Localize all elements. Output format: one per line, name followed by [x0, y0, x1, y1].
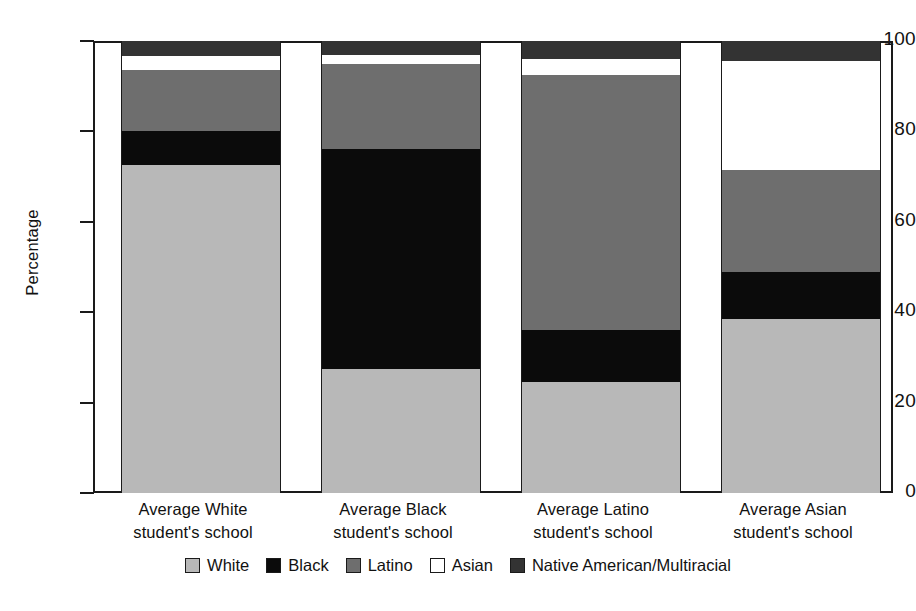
bar-segment-latino[interactable] — [322, 64, 480, 150]
y-axis-tick — [80, 130, 94, 132]
bar-segment-white[interactable] — [122, 165, 280, 493]
x-axis-label-line: student's school — [83, 521, 303, 544]
x-axis-label-line: student's school — [283, 521, 503, 544]
stacked-bar-chart: Percentage 020406080100 Average Whitestu… — [0, 0, 916, 611]
y-axis-tick — [80, 311, 94, 313]
x-axis-label-3: Average Latinostudent's school — [483, 498, 703, 544]
legend-label: Native American/Multiracial — [532, 556, 731, 575]
bar-segment-native[interactable] — [122, 41, 280, 56]
x-axis-label-2: Average Blackstudent's school — [283, 498, 503, 544]
bar-segment-black[interactable] — [522, 330, 680, 382]
bar-segment-asian[interactable] — [722, 61, 880, 169]
legend-swatch-icon — [510, 558, 525, 573]
y-axis-tick — [80, 492, 94, 494]
bar-4[interactable] — [721, 41, 881, 493]
bar-segment-white[interactable] — [522, 382, 680, 493]
bar-segment-asian[interactable] — [122, 56, 280, 70]
bar-segment-native[interactable] — [722, 41, 880, 61]
x-axis-label-line: student's school — [683, 521, 903, 544]
y-axis-tick — [80, 40, 94, 42]
bar-segment-native[interactable] — [322, 41, 480, 55]
x-axis-label-1: Average Whitestudent's school — [83, 498, 303, 544]
bar-segment-black[interactable] — [122, 131, 280, 165]
legend-label: Black — [288, 556, 328, 575]
bar-segment-asian[interactable] — [522, 59, 680, 75]
x-axis-label-line: Average Black — [339, 500, 446, 518]
bar-segment-white[interactable] — [322, 369, 480, 493]
legend-swatch-icon — [185, 558, 200, 573]
bar-segment-black[interactable] — [322, 149, 480, 368]
x-axis-label-line: Average Latino — [537, 500, 649, 518]
legend-item-native[interactable]: Native American/Multiracial — [510, 556, 731, 575]
bar-segment-black[interactable] — [722, 272, 880, 319]
bar-3[interactable] — [521, 41, 681, 493]
legend-label: White — [207, 556, 249, 575]
x-axis-label-line: student's school — [483, 521, 703, 544]
legend-item-latino[interactable]: Latino — [346, 556, 413, 575]
legend-swatch-icon — [430, 558, 445, 573]
chart-legend: WhiteBlackLatinoAsianNative American/Mul… — [0, 556, 916, 575]
bar-segment-native[interactable] — [522, 41, 680, 59]
legend-item-black[interactable]: Black — [266, 556, 328, 575]
y-axis-title: Percentage — [23, 73, 42, 433]
bar-1[interactable] — [121, 41, 281, 493]
legend-swatch-icon — [266, 558, 281, 573]
bar-segment-white[interactable] — [722, 319, 880, 493]
bar-2[interactable] — [321, 41, 481, 493]
legend-item-white[interactable]: White — [185, 556, 249, 575]
x-axis-label-line: Average White — [138, 500, 247, 518]
legend-label: Latino — [368, 556, 413, 575]
y-axis-tick — [80, 402, 94, 404]
y-axis-tick — [80, 221, 94, 223]
legend-item-asian[interactable]: Asian — [430, 556, 493, 575]
legend-swatch-icon — [346, 558, 361, 573]
bar-segment-asian[interactable] — [322, 55, 480, 64]
bars-layer — [93, 41, 893, 493]
x-axis-label-4: Average Asianstudent's school — [683, 498, 903, 544]
x-axis-label-line: Average Asian — [739, 500, 846, 518]
bar-segment-latino[interactable] — [122, 70, 280, 131]
x-axis-labels: Average Whitestudent's schoolAverage Bla… — [93, 498, 893, 546]
bar-segment-latino[interactable] — [522, 75, 680, 330]
legend-label: Asian — [452, 556, 493, 575]
bar-segment-latino[interactable] — [722, 170, 880, 272]
